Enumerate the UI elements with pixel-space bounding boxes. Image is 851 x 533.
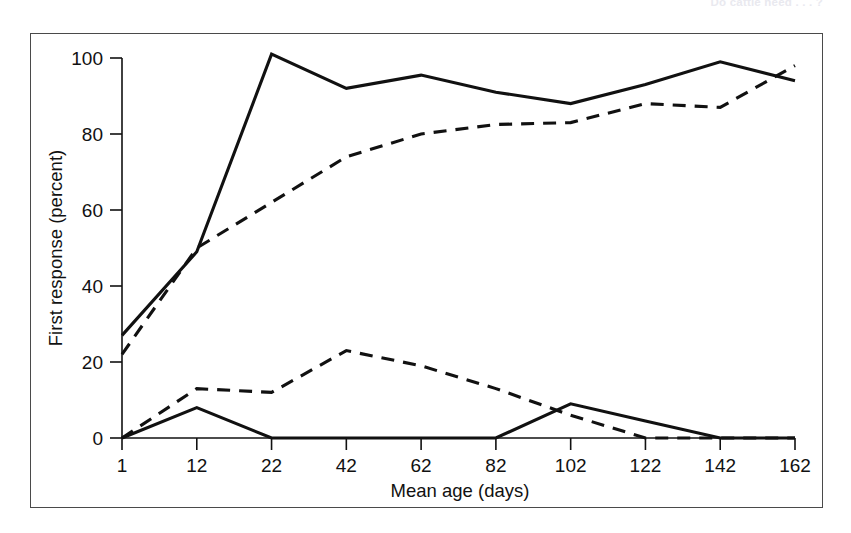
figure-page: { "running_head": { "text": "Do cattle n… [0, 0, 851, 533]
running-head: Do cattle need . . . ? [0, 0, 851, 12]
running-head-text: Do cattle need . . . ? [711, 0, 823, 8]
figure-frame [30, 33, 823, 508]
